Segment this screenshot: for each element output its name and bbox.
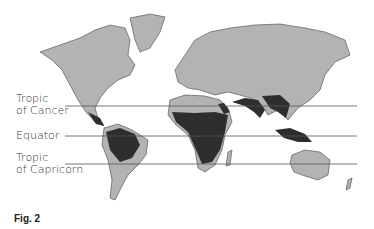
figure-caption: Fig. 2 bbox=[14, 213, 40, 224]
equator-label: Equator bbox=[16, 130, 59, 142]
tropic-of-cancer-label-line2: of Cancer bbox=[16, 105, 69, 117]
australia bbox=[290, 150, 330, 180]
tropic-of-capricorn-label-line2: of Capricorn bbox=[16, 164, 83, 176]
tropic-of-cancer-label: Tropic of Cancer bbox=[16, 93, 69, 117]
tropical-indonesia bbox=[275, 128, 312, 142]
land-masses bbox=[40, 14, 352, 200]
tropical-africa bbox=[172, 112, 228, 164]
new-zealand bbox=[346, 178, 352, 190]
greenland bbox=[130, 14, 165, 52]
tropic-of-capricorn-label: Tropic of Capricorn bbox=[16, 152, 83, 176]
